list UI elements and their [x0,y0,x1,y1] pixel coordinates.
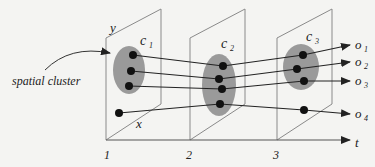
svg-text:o: o [355,106,362,121]
svg-text:o: o [355,37,362,52]
svg-text:4: 4 [364,114,368,123]
svg-text:o: o [355,54,362,69]
annotation-label: spatial cluster [12,74,81,88]
annotation-arrow [45,51,110,70]
time-axis-label: t [355,135,359,150]
cluster-label-c1: c 1 [140,33,153,50]
x-axis-label: x [135,116,142,131]
svg-text:c: c [306,29,313,44]
object-label-o1: o 1 [355,37,368,54]
svg-text:3: 3 [314,37,319,46]
svg-text:2: 2 [364,62,368,71]
time-tick-1: 1 [104,148,110,162]
y-axis-label: y [108,20,116,35]
svg-text:1: 1 [364,45,368,54]
object-label-o2: o 2 [355,54,368,71]
svg-text:c: c [140,33,147,48]
svg-text:2: 2 [230,44,234,53]
time-tick-2: 2 [186,148,192,162]
trajectory-o3 [129,81,350,89]
time-tick-3: 3 [272,148,279,162]
cluster-label-c3: c 3 [306,29,319,46]
object-label-o4: o 4 [355,106,368,123]
object-label-o3: o 3 [355,73,368,90]
svg-text:3: 3 [363,81,368,90]
svg-text:c: c [221,36,228,51]
cluster-label-c2: c 2 [221,36,234,53]
svg-text:1: 1 [149,41,153,50]
trajectory-cluster-diagram: spatial cluster y x t 1 2 3 c 1 c 2 c 3 … [0,0,375,167]
svg-text:o: o [355,73,362,88]
